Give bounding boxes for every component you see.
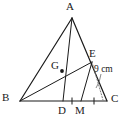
point-label-B: B [2, 92, 9, 103]
measurement-label-9cm: 9 cm [94, 64, 113, 74]
point-label-A: A [66, 1, 74, 12]
point-label-E: E [89, 48, 96, 59]
geometry-figure: A B C D M E G 9 cm [0, 0, 129, 121]
segment-AC [72, 18, 107, 101]
point-label-M: M [75, 105, 85, 116]
point-label-G: G [51, 60, 59, 71]
point-label-C: C [111, 93, 118, 104]
point-label-D: D [58, 105, 66, 116]
geometry-canvas [0, 0, 129, 121]
segment-EM [81, 62, 92, 101]
point-G-dot [60, 69, 64, 73]
